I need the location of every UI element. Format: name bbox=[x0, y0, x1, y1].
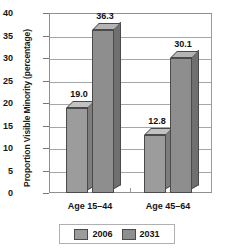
bar-side-face bbox=[192, 50, 199, 189]
y-tick-label: 5 bbox=[0, 166, 13, 176]
y-tick-label: 15 bbox=[0, 121, 13, 131]
gridline bbox=[50, 37, 211, 38]
bar bbox=[144, 135, 166, 193]
y-tick-label: 30 bbox=[0, 53, 13, 63]
bar-value-label: 36.3 bbox=[85, 11, 125, 21]
legend-label-2006: 2006 bbox=[92, 229, 112, 239]
y-axis-title: Proportion Visible Minority (percentage) bbox=[22, 18, 32, 198]
bar-face bbox=[92, 30, 114, 193]
bar-value-label: 30.1 bbox=[163, 39, 203, 49]
y-tick-mark bbox=[43, 148, 49, 149]
bar-face bbox=[66, 108, 88, 194]
y-tick-label: 20 bbox=[0, 98, 13, 108]
y-tick-label: 35 bbox=[0, 31, 13, 41]
y-tick-mark bbox=[43, 103, 49, 104]
legend-swatch-2006 bbox=[74, 229, 88, 240]
y-tick-mark bbox=[43, 171, 49, 172]
chart-legend: 2006 2031 bbox=[59, 224, 175, 244]
category-label: Age 45–64 bbox=[123, 201, 213, 211]
bar bbox=[66, 108, 88, 194]
bar-side-face bbox=[114, 22, 121, 189]
legend-label-2031: 2031 bbox=[140, 229, 160, 239]
y-tick-label: 10 bbox=[0, 143, 13, 153]
bar-face bbox=[144, 135, 166, 193]
legend-swatch-2031 bbox=[122, 229, 136, 240]
y-tick-mark bbox=[43, 81, 49, 82]
y-tick-label: 25 bbox=[0, 76, 13, 86]
axis-center-tick bbox=[130, 188, 131, 193]
bar-chart: Proportion Visible Minority (percentage)… bbox=[0, 0, 229, 251]
category-label: Age 15–44 bbox=[45, 201, 135, 211]
bar bbox=[92, 30, 114, 193]
y-tick-mark bbox=[43, 58, 49, 59]
y-tick-mark bbox=[43, 126, 49, 127]
y-tick-mark bbox=[43, 36, 49, 37]
legend-item-2031: 2031 bbox=[122, 229, 160, 240]
y-tick-mark bbox=[43, 193, 49, 194]
bar bbox=[170, 58, 192, 193]
legend-item-2006: 2006 bbox=[74, 229, 112, 240]
y-tick-label: 40 bbox=[0, 8, 13, 18]
bar-face bbox=[170, 58, 192, 193]
y-tick-mark bbox=[43, 13, 49, 14]
y-tick-label: 0 bbox=[0, 188, 13, 198]
